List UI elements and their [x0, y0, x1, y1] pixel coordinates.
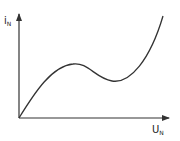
characteristic-curve — [19, 16, 163, 118]
diagram-svg — [0, 0, 180, 141]
y-axis-label-sub: N — [7, 20, 12, 27]
y-axis-label: iN — [4, 16, 11, 29]
x-axis-label-sub: N — [159, 129, 164, 136]
characteristic-diagram: iN UN — [0, 0, 180, 141]
x-axis-label: UN — [152, 125, 164, 138]
